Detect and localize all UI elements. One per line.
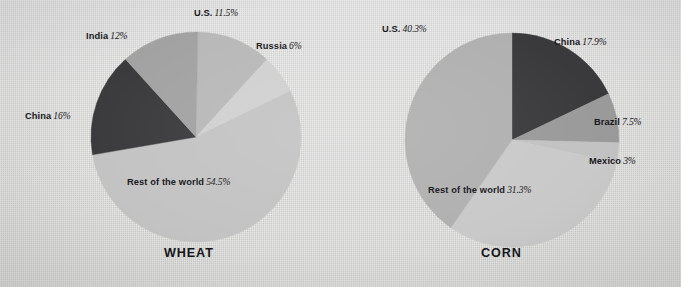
wheat-label-russia-pct: 6% [289, 40, 302, 51]
wheat-label-india-pct: 12% [110, 30, 127, 41]
corn-label-rest: Rest of the world31.3% [428, 185, 531, 195]
corn-label-brazil-pct: 7.5% [622, 116, 642, 127]
wheat-label-us: U.S.11.5% [194, 8, 238, 18]
corn-label-brazil-name: Brazil [594, 117, 620, 127]
wheat-label-us-name: U.S. [194, 8, 212, 18]
corn-label-mexico: Mexico3% [589, 156, 636, 166]
wheat-label-russia-name: Russia [256, 41, 287, 51]
corn-label-rest-pct: 31.3% [507, 184, 531, 195]
wheat-label-rest-pct: 54.5% [206, 176, 230, 187]
corn-pie-graphic [340, 0, 681, 287]
corn-label-brazil: Brazil7.5% [594, 117, 642, 127]
corn-label-us-name: U.S. [382, 24, 400, 34]
corn-label-mexico-name: Mexico [589, 156, 621, 166]
wheat-label-china-pct: 16% [53, 110, 70, 121]
wheat-chart-title: WHEAT [164, 246, 214, 260]
corn-pie-chart: U.S.40.3% China17.9% Brazil7.5% Mexico3%… [340, 0, 681, 287]
corn-label-us-pct: 40.3% [402, 23, 426, 34]
wheat-label-rest-name: Rest of the world [127, 177, 204, 187]
wheat-pie-chart: U.S.11.5% Russia6% India12% China16% Res… [0, 0, 340, 287]
infographic-page: U.S.11.5% Russia6% India12% China16% Res… [0, 0, 681, 287]
corn-label-china-pct: 17.9% [582, 36, 606, 47]
wheat-label-china-name: China [25, 111, 51, 121]
wheat-label-rest: Rest of the world54.5% [127, 177, 230, 187]
corn-label-mexico-pct: 3% [623, 155, 636, 166]
wheat-label-india-name: India [86, 31, 108, 41]
wheat-label-us-pct: 11.5% [214, 7, 238, 18]
corn-label-rest-name: Rest of the world [428, 185, 505, 195]
wheat-label-india: India12% [86, 31, 128, 41]
corn-label-china-name: China [554, 37, 580, 47]
corn-chart-title: CORN [481, 246, 522, 260]
wheat-label-russia: Russia6% [256, 41, 302, 51]
corn-label-us: U.S.40.3% [382, 24, 427, 34]
wheat-label-china: China16% [25, 111, 71, 121]
corn-label-china: China17.9% [554, 37, 607, 47]
